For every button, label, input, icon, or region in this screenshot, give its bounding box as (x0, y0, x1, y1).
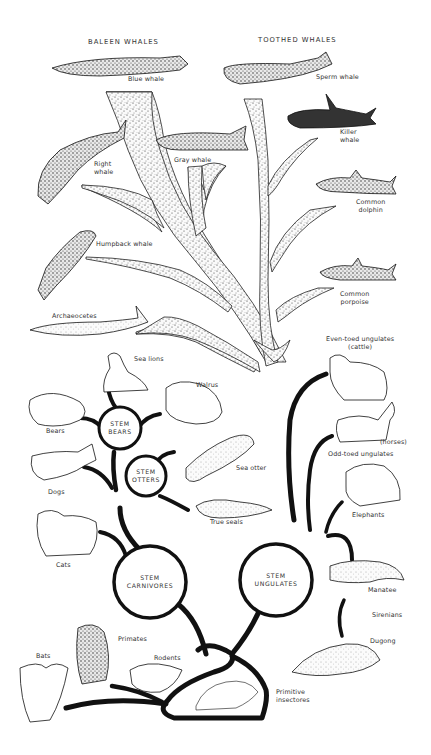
lion-illustration (37, 510, 97, 556)
branch-true-seals (160, 496, 188, 510)
common-dolphin-illustration (316, 170, 396, 194)
label-right-whale: Right whale (94, 160, 113, 176)
bear-illustration (29, 393, 85, 426)
sirenian-link (339, 600, 344, 636)
link-otters-carnivores (120, 508, 140, 550)
label-blue-whale: Blue whale (128, 75, 164, 83)
common-porpoise-illustration (320, 258, 396, 280)
blue-whale-illustration (52, 56, 188, 76)
gray-whale-illustration (156, 126, 248, 150)
header-baleen-whales: BALEEN WHALES (88, 38, 159, 46)
label-true-seals: True seals (210, 518, 243, 526)
branch-killer-whale (268, 138, 318, 196)
humpback-illustration (38, 231, 96, 300)
label-manatee: Manatee (368, 586, 396, 594)
elephant-illustration (346, 464, 400, 506)
label-sperm-whale: Sperm whale (316, 73, 359, 81)
dugong-illustration (292, 644, 380, 676)
label-primates: Primates (118, 635, 147, 643)
link-bears-otters (113, 452, 116, 490)
branch-dogs (84, 467, 112, 488)
stem-bears-label: STEM BEARS (100, 420, 140, 436)
cattle-illustration (330, 355, 387, 400)
label-killer-whale: Killer whale (340, 128, 359, 144)
label-common-porpoise: Common porpoise (340, 290, 369, 306)
label-cats: Cats (56, 561, 71, 569)
archaeocetes-illustration (30, 306, 148, 335)
label-archaeocetes: Archaeocetes (52, 312, 97, 320)
stem-otters-label: STEM OTTERS (126, 468, 166, 484)
horse-illustration (336, 402, 394, 442)
label-dugong: Dugong (370, 637, 396, 645)
label-common-dolphin: Common dolphin (356, 198, 385, 214)
label-even-toed-ungulates: Even-toed ungulates (cattle) (326, 335, 394, 351)
rodent-illustration (130, 664, 182, 693)
label-sirenians: Sirenians (372, 611, 402, 619)
trunk-to-elephants (326, 502, 342, 532)
branch-bats (66, 701, 166, 708)
true-seal-illustration (196, 500, 272, 518)
label-bats: Bats (36, 652, 51, 660)
label-rodents: Rodents (154, 654, 181, 662)
tree-drawing (0, 0, 431, 755)
stem-ungulates-label: STEM UNGULATES (240, 572, 312, 588)
manatee-illustration (330, 561, 404, 583)
primate-illustration (77, 625, 109, 684)
dog-illustration (31, 444, 96, 480)
label-primitive-insectivores: Primitive insectores (276, 688, 310, 704)
stem-carnivores-label: STEM CARNIVORES (114, 574, 186, 590)
sea-otter-illustration (186, 435, 254, 481)
header-toothed-whales: TOOTHED WHALES (258, 36, 337, 44)
label-sea-otter: Sea otter (236, 464, 266, 472)
label-horses: (horses) (380, 438, 407, 446)
branch-common-porpoise (276, 288, 334, 322)
trunk-to-manatee (328, 535, 352, 560)
label-gray-whale: Gray whale (174, 156, 211, 164)
bat-illustration (20, 664, 68, 722)
label-bears: Bears (46, 427, 65, 435)
label-humpback-whale: Humpback whale (96, 240, 153, 248)
label-sea-lions: Sea lions (134, 355, 164, 363)
killer-whale-illustration (288, 94, 376, 128)
evolution-diagram: BALEEN WHALES TOOTHED WHALES Blue whale … (0, 0, 431, 755)
label-dogs: Dogs (48, 488, 65, 496)
label-elephants: Elephants (352, 511, 385, 519)
label-odd-toed-ungulates: Odd-toed ungulates (328, 450, 393, 458)
branch-cats (100, 532, 126, 556)
insectivore-illustration (196, 681, 258, 710)
branch-common-dolphin (270, 206, 336, 272)
label-walrus: Walrus (196, 381, 218, 389)
